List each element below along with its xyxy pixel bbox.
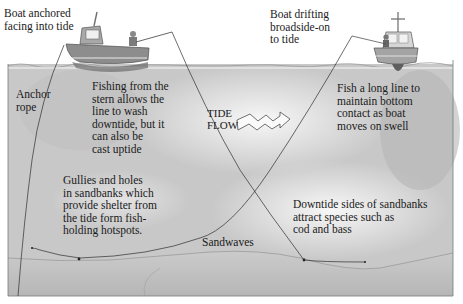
label-gullies-hotspots: Gullies and holes in sandbanks which pro… bbox=[63, 174, 157, 237]
label-boat-anchored: Boat anchored facing into tide bbox=[4, 7, 74, 32]
label-fishing-stern: Fishing from the stern allows the line t… bbox=[92, 80, 169, 156]
sinker-weight bbox=[303, 259, 306, 262]
angler-head bbox=[130, 31, 136, 37]
wheelhouse-window bbox=[86, 30, 99, 39]
fishing-rod bbox=[352, 36, 386, 44]
label-anchor-rope: Anchor rope bbox=[16, 88, 51, 113]
sinker-weight bbox=[78, 258, 81, 261]
fishing-rod bbox=[136, 32, 172, 42]
boat-hull bbox=[66, 44, 149, 64]
boat-mast bbox=[94, 12, 97, 26]
label-sandwaves: Sandwaves bbox=[202, 236, 254, 249]
fishing-tide-diagram: Boat anchored facing into tide Boat drif… bbox=[0, 0, 463, 304]
angler-body bbox=[129, 37, 137, 46]
angler-head bbox=[383, 34, 388, 39]
anchored-boat bbox=[66, 12, 172, 72]
diagram-artwork bbox=[0, 0, 463, 304]
label-downtide-sandbanks: Downtide sides of sandbanks attract spec… bbox=[293, 198, 427, 236]
label-tide-flow: TIDE FLOW bbox=[207, 108, 238, 131]
hook-end bbox=[364, 261, 366, 263]
drifting-boat bbox=[352, 12, 418, 71]
label-long-line: Fish a long line to maintain bottom cont… bbox=[337, 82, 420, 132]
label-boat-drifting: Boat drifting broadside-on to tide bbox=[270, 8, 330, 46]
hook-end bbox=[31, 247, 33, 249]
